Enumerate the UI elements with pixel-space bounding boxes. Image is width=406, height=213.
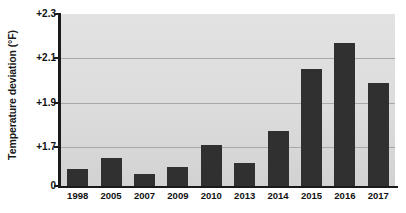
bar [101,158,122,186]
x-axis-spine [58,186,398,188]
x-axis-tick-label: 2014 [268,190,289,201]
bar [368,83,389,186]
x-axis-tick-label: 2015 [301,190,322,201]
x-axis-tick-label: 2013 [234,190,255,201]
bar [201,145,222,186]
x-axis-tick-labels: 1998200520072009201020132014201520162017 [61,190,395,210]
bar-chart: Temperature deviation (°F) 0+1.7+1.9+2.1… [0,0,406,213]
bar [134,174,155,186]
y-axis-tick-mark [54,146,61,148]
plot-area [61,14,395,186]
y-axis-tick-mark [54,185,61,187]
x-axis-tick-label: 2009 [167,190,188,201]
bar [301,69,322,186]
x-axis-tick-label: 2016 [334,190,355,201]
y-axis-title-text: Temperature deviation (°F) [6,30,18,160]
x-axis-tick-label: 2005 [101,190,122,201]
x-axis-tick-label: 2010 [201,190,222,201]
bar [268,131,289,186]
bar [234,163,255,186]
y-axis-title: Temperature deviation (°F) [0,0,24,190]
x-axis-tick-label: 2007 [134,190,155,201]
bar [334,43,355,186]
y-axis-tick-mark [54,102,61,104]
bars-layer [61,14,395,186]
y-axis-tick-mark [54,13,61,15]
x-axis-tick-label: 1998 [67,190,88,201]
y-axis-tick-mark [54,57,61,59]
x-axis-tick-label: 2017 [368,190,389,201]
bar [167,167,188,186]
bar [67,169,88,186]
y-axis-tick-labels: 0+1.7+1.9+2.1+2.3 [24,0,58,213]
